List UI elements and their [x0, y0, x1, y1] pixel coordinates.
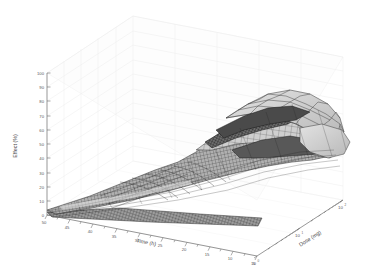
z-tick-20: 20 — [39, 185, 44, 190]
z-tick-90: 90 — [39, 85, 44, 90]
svg-text:10: 10 — [338, 205, 343, 210]
svg-text:10: 10 — [251, 261, 256, 266]
x-tick-20: 20 — [182, 247, 187, 252]
z-tick-80: 80 — [39, 99, 44, 104]
x-tick-35: 35 — [112, 234, 117, 239]
z-tick-70: 70 — [39, 114, 44, 119]
surface-plot-3d: 0 10 20 30 40 50 60 70 80 90 100 Effect … — [0, 0, 376, 270]
z-tick-40: 40 — [39, 156, 44, 161]
z-tick-100: 100 — [37, 71, 45, 76]
z-tick-50: 50 — [39, 142, 44, 147]
x-tick-25: 25 — [158, 243, 163, 248]
x-tick-45: 45 — [65, 225, 70, 230]
z-tick-60: 60 — [39, 128, 44, 133]
z-tick-10: 10 — [39, 199, 44, 204]
svg-text:10: 10 — [295, 233, 300, 238]
x-tick-10: 10 — [228, 256, 233, 261]
z-axis-label: Effect (%) — [12, 134, 18, 158]
x-tick-15: 15 — [205, 252, 210, 257]
x-tick-50: 50 — [42, 220, 47, 225]
figure-canvas: 0 10 20 30 40 50 60 70 80 90 100 Effect … — [0, 0, 376, 270]
x-tick-40: 40 — [88, 229, 93, 234]
z-tick-30: 30 — [39, 171, 44, 176]
